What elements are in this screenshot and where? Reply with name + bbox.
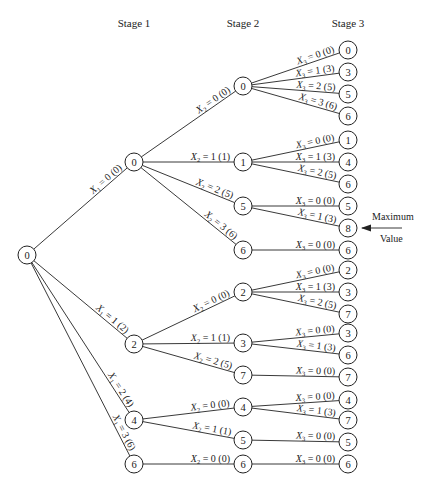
tree-edge: [34, 168, 127, 249]
tree-node: 6: [234, 455, 252, 473]
tree-node: 3: [339, 324, 357, 342]
tree-node: 5: [234, 197, 252, 215]
tree-node: 0: [234, 77, 252, 95]
edge-label: X3 = 1 (3): [295, 402, 336, 419]
arrow-left-icon: [361, 225, 371, 232]
node-value: 6: [345, 111, 350, 122]
edge-label: X2 = 3 (6): [201, 208, 240, 243]
node-value: 7: [240, 370, 245, 381]
tree-node: 7: [234, 366, 252, 384]
node-value: 0: [345, 45, 350, 56]
edge-label: X3 = 1 (3): [296, 206, 338, 226]
tree-node: 6: [339, 107, 357, 125]
node-value: 6: [131, 459, 136, 470]
tree-edge: [32, 263, 129, 413]
node-value: 3: [345, 67, 350, 78]
tree-node: 1: [234, 153, 252, 171]
node-value: 3: [345, 328, 350, 339]
node-value: 0: [131, 157, 136, 168]
tree-node: 5: [339, 433, 357, 451]
edge-label: X3 = 0 (0): [295, 453, 335, 466]
tree-node: 4: [234, 398, 252, 416]
stage-3-header: Stage 3: [332, 17, 365, 29]
edge-label: X3 = 0 (0): [294, 131, 336, 151]
node-value: 0: [24, 250, 29, 261]
node-value: 2: [345, 265, 350, 276]
node-value: 1: [240, 157, 245, 168]
tree-node: 2: [339, 261, 357, 279]
node-value: 4: [240, 402, 246, 413]
tree-edge: [143, 408, 234, 419]
tree-node: 5: [339, 85, 357, 103]
edge-label: X2 = 1 (1): [190, 151, 230, 164]
node-value: 6: [345, 459, 350, 470]
edge-label: X2 = 0 (0): [189, 397, 230, 414]
edge-label: X2 = 2 (5): [193, 175, 235, 202]
node-value: 4: [345, 157, 351, 168]
tree-node: 2: [125, 335, 143, 353]
tree-node: 3: [234, 334, 252, 352]
node-value: 1: [345, 135, 350, 146]
node-value: 5: [345, 89, 350, 100]
node-value: 6: [240, 459, 245, 470]
edge-label: X2 = 0 (0): [193, 84, 233, 117]
tree-node: 2: [234, 283, 252, 301]
edge-label: X3 = 1 (3): [295, 151, 335, 164]
tree-edge: [141, 91, 235, 157]
edge-label: X3 = 2 (5): [296, 162, 338, 182]
tree-node: 7: [339, 305, 357, 323]
node-value: 4: [131, 415, 137, 426]
edge-label: X3 = 2 (5): [296, 292, 338, 312]
edge-label: X2 = 1 (1): [190, 332, 230, 345]
edge-label: X3 = 0 (0): [295, 239, 335, 252]
maximum-value-annotation: Maximum Value: [361, 211, 414, 244]
tree-node: 4: [125, 411, 143, 429]
node-value: 2: [131, 339, 136, 350]
tree-node: 6: [234, 241, 252, 259]
stage-2-header: Stage 2: [227, 17, 260, 29]
edge-label: X1 = 1 (2): [92, 301, 131, 336]
edge-label: X3 = 0 (0): [294, 261, 336, 281]
tree-node: 7: [339, 368, 357, 386]
tree-node: 6: [125, 455, 143, 473]
node-value: 7: [345, 309, 350, 320]
tree-node: 0: [339, 41, 357, 59]
node-value: 6: [345, 179, 350, 190]
edge-label: X3 = 0 (0): [295, 195, 335, 208]
tree-node: 6: [339, 346, 357, 364]
tree-node: 0: [125, 153, 143, 171]
tree-edge: [143, 343, 234, 344]
tree-node: 4: [339, 153, 357, 171]
tree-node: 4: [339, 391, 357, 409]
node-value: 2: [240, 287, 245, 298]
decision-tree-diagram: Stage 1 Stage 2 Stage 3 X1 = 0 (0)X1 = 1…: [0, 0, 432, 488]
edge-label: X2 = 0 (0): [190, 287, 232, 316]
stage-1-header: Stage 1: [118, 17, 151, 29]
node-value: 3: [345, 287, 350, 298]
tree-node: 3: [339, 63, 357, 81]
node-value: 5: [240, 435, 245, 446]
annotation-line-1: Maximum: [372, 211, 414, 222]
node-value: 3: [240, 338, 245, 349]
edge-label: X3 = 3 (6): [297, 90, 339, 113]
node-value: 7: [345, 372, 350, 383]
tree-edge: [34, 261, 127, 338]
tree-node: 6: [339, 175, 357, 193]
edge-label: X3 = 1 (3): [295, 281, 335, 294]
tree-node: 6: [339, 241, 357, 259]
tree-node: 8: [339, 219, 357, 237]
edge-label: X1 = 0 (0): [86, 162, 125, 198]
tree-node: 0: [18, 246, 36, 264]
tree-node: 5: [339, 197, 357, 215]
node-value: 6: [345, 245, 350, 256]
edge-label: X1 = 2 (4): [104, 369, 136, 410]
tree-node: 6: [339, 455, 357, 473]
node-value: 6: [240, 245, 245, 256]
node-value: 5: [345, 437, 350, 448]
edge-label: X2 = 2 (5): [192, 349, 234, 372]
edges-layer: [31, 53, 339, 464]
edge-labels-layer: X1 = 0 (0)X1 = 1 (2)X1 = 2 (4)X1 = 3 (6)…: [86, 43, 338, 465]
tree-node: 3: [339, 283, 357, 301]
node-value: 0: [240, 81, 245, 92]
tree-node: 5: [234, 431, 252, 449]
